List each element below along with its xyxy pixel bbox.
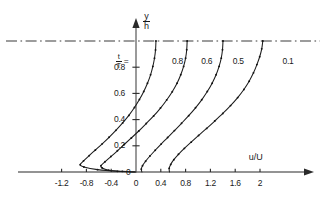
data-point-marker [211,82,213,84]
data-point-marker [186,49,188,51]
data-point-marker [140,168,142,170]
x-tick-label: 0 [126,178,146,188]
x-tick-label: 0.8 [176,178,196,188]
data-point-marker [230,105,232,107]
y-axis-denominator: h [143,21,150,31]
data-point-marker [215,74,217,76]
data-point-marker [176,82,178,84]
data-point-marker [222,40,224,42]
curve-label-0.1: 0.1 [282,56,293,66]
data-point-marker [170,163,172,165]
data-point-marker [195,107,197,109]
data-point-marker [243,89,245,91]
legend-ratio-prefix: t T = [116,53,129,69]
data-point-marker [173,130,175,132]
data-point-marker [110,156,112,158]
data-point-marker [183,147,185,149]
data-point-marker [185,57,187,59]
t-over-T-fraction: t T [116,53,123,69]
data-point-marker [153,115,155,117]
data-point-marker [145,123,147,125]
data-point-marker [160,143,162,145]
data-point-marker [178,153,180,155]
data-point-marker [256,64,258,66]
data-point-marker [116,170,118,172]
data-point-marker [171,91,173,93]
data-point-marker [149,155,151,157]
curve-label-0.8: 0.8 [172,56,183,66]
data-point-marker [97,169,99,171]
data-point-marker [94,149,96,151]
data-point-marker [115,129,117,131]
curve-label-0.5: 0.5 [233,56,244,66]
data-point-marker [180,74,182,76]
data-point-marker [198,135,200,137]
legend-numerator: t [116,53,123,61]
data-point-marker [83,160,85,162]
data-point-marker [142,165,144,167]
data-point-marker [168,167,170,169]
data-point-marker [154,149,156,151]
data-point-marker [206,91,208,93]
x-axis [18,168,314,175]
data-point-marker [101,143,103,145]
data-point-marker [167,137,169,139]
data-point-marker [214,120,216,122]
data-point-marker [128,114,130,116]
data-point-marker [248,80,250,82]
data-point-marker [138,130,140,132]
y-over-h-fraction: y h [143,12,150,31]
data-point-marker [147,82,149,84]
data-point-marker [79,164,81,166]
data-point-marker [108,136,110,138]
data-point-marker [181,122,183,124]
y-tick-label: 0.4 [114,114,125,124]
data-point-marker [154,57,156,59]
x-tick-label: -0.8 [76,178,96,188]
data-point-marker [186,40,188,42]
data-point-marker [259,56,261,58]
data-point-marker [220,57,222,59]
y-tick-label: 0 [126,167,130,177]
data-point-marker [261,48,263,50]
data-point-marker [143,90,145,92]
data-point-marker [201,99,203,101]
legend-denominator: T [116,61,123,70]
x-tick-label: 1.2 [200,178,220,188]
x-tick-label: -1.2 [52,178,72,188]
data-point-marker [166,99,168,101]
data-point-marker [101,167,103,169]
data-point-marker [222,112,224,114]
data-point-marker [88,155,90,157]
data-point-marker [121,170,123,172]
y-axis-title: y h [143,12,150,31]
x-tick-label: -0.4 [101,178,121,188]
x-tick-label: 2 [250,178,270,188]
x-tick-label: 0.4 [151,178,171,188]
data-point-marker [206,127,208,129]
data-point-marker [155,49,157,51]
data-point-marker [100,165,102,167]
y-tick-label: 0.2 [114,140,125,150]
data-point-marker [130,137,132,139]
data-point-marker [138,99,140,101]
legend-equals-sign: = [122,56,128,66]
data-point-marker [155,40,157,42]
data-point-marker [222,49,224,51]
x-axis-title: u/U [249,152,263,162]
data-point-marker [150,74,152,76]
data-point-marker [83,166,85,168]
data-point-marker [173,159,175,161]
data-point-marker [218,65,220,67]
data-point-marker [145,160,147,162]
data-point-marker [134,107,136,109]
x-tick-label: 1.6 [225,178,245,188]
data-point-marker [262,40,264,42]
data-point-marker [104,161,106,163]
plot-canvas [0,0,324,203]
y-axis-numerator: y [143,12,150,21]
data-point-marker [108,169,110,171]
velocity-profile-chart: -1.2-0.8-0.400.40.81.21.62 00.20.40.60.8… [0,0,324,203]
data-point-marker [237,97,239,99]
data-point-marker [160,107,162,109]
